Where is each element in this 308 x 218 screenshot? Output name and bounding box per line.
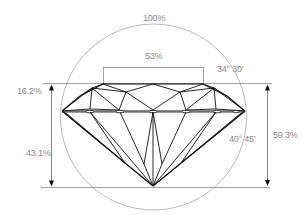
left-dimension-arrow	[49, 85, 54, 187]
pavilion-facets	[62, 111, 245, 186]
diameter-label: 100%	[143, 13, 165, 23]
pavilion-angle-label: 40° 45'	[229, 134, 255, 144]
crown-facets	[62, 84, 245, 111]
total-depth-label: 59.3%	[273, 130, 298, 140]
right-dimension-arrow	[265, 85, 270, 187]
diamond-outline	[62, 84, 245, 186]
table-rectangle	[104, 68, 204, 84]
diamond-proportions-diagram: 100% 53% 34° 30' 16.2% 43.1% 40° 45' 59.…	[0, 0, 308, 218]
pavilion-depth-label: 43.1%	[26, 148, 51, 158]
crown-height-label: 16.2%	[17, 86, 42, 96]
table-percentage-label: 53%	[145, 51, 162, 61]
crown-angle-label: 34° 30'	[217, 64, 243, 74]
diagram-canvas	[0, 0, 308, 218]
